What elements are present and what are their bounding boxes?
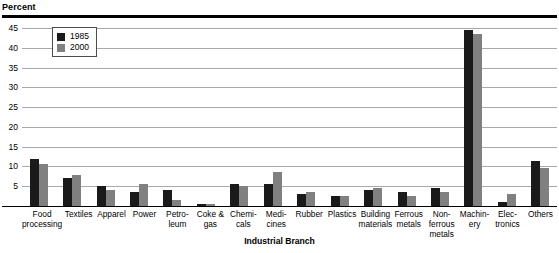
x-axis-tick-label: Petro-leum <box>161 209 194 239</box>
top-rule <box>2 15 557 18</box>
bar <box>264 184 273 206</box>
x-axis-tick-label: Coke &gas <box>194 209 227 239</box>
bar <box>230 184 239 206</box>
bar-chart: Percent 45403530252015105 Foodprocessing… <box>0 0 559 253</box>
x-axis-tick-label: Chemi-cals <box>227 209 260 239</box>
bar-groups <box>22 24 557 206</box>
bar <box>63 178 72 206</box>
legend-item-label: 2000 <box>70 43 89 52</box>
bar-group <box>457 24 490 206</box>
x-axis-tick-label: Ferrousmetals <box>392 209 425 239</box>
x-axis-tick-label: Machin-ery <box>458 209 491 239</box>
y-axis-tick-label: 15 <box>0 142 18 152</box>
bar <box>440 192 449 206</box>
bar <box>30 159 39 206</box>
legend: 1985 2000 <box>52 27 97 57</box>
y-axis-tick-label: 20 <box>0 122 18 132</box>
bar <box>464 30 473 206</box>
x-axis-tick-label: Textiles <box>62 209 95 239</box>
bar <box>306 192 315 206</box>
plot-area: 45403530252015105 <box>22 24 557 206</box>
bar <box>106 190 115 206</box>
bar <box>340 196 349 206</box>
bar <box>331 196 340 206</box>
x-axis-tick-label: Foodprocessing <box>22 209 62 239</box>
x-axis-tick-label: Non-ferrousmetals <box>425 209 458 239</box>
y-axis-tick-label: 35 <box>0 63 18 73</box>
x-axis-tick-label: Medi-cines <box>260 209 293 239</box>
y-axis-tick-label: 10 <box>0 161 18 171</box>
x-axis-tick-label: Plastics <box>326 209 359 239</box>
bar <box>239 186 248 206</box>
bar <box>72 175 81 206</box>
bar <box>431 188 440 206</box>
bar <box>507 194 516 206</box>
x-axis-tick-label: Elec-tronics <box>491 209 524 239</box>
bar <box>398 192 407 206</box>
bar <box>540 168 549 206</box>
bar-group <box>290 24 323 206</box>
bar <box>473 34 482 206</box>
legend-swatch-icon <box>57 44 65 52</box>
bar <box>139 184 148 206</box>
legend-item: 1985 <box>57 31 89 42</box>
y-axis-tick-label: 5 <box>0 181 18 191</box>
bar <box>273 172 282 206</box>
legend-item-label: 1985 <box>70 32 89 41</box>
y-axis-tick-label: 30 <box>0 82 18 92</box>
legend-item: 2000 <box>57 42 89 53</box>
x-axis-tick-label: Apparel <box>95 209 128 239</box>
bar-group <box>490 24 523 206</box>
bar <box>407 196 416 206</box>
bar-group <box>390 24 423 206</box>
bar <box>130 192 139 206</box>
x-axis-tick-label: Power <box>128 209 161 239</box>
x-axis-title: Industrial Branch <box>0 236 559 246</box>
bar-group <box>323 24 356 206</box>
bar-group <box>423 24 456 206</box>
bar <box>163 190 172 206</box>
y-axis-tick-label: 45 <box>0 23 18 33</box>
bar <box>297 194 306 206</box>
y-axis-tick-label: 40 <box>0 43 18 53</box>
legend-swatch-icon <box>57 33 65 41</box>
x-axis-line <box>2 206 557 207</box>
bar <box>531 161 540 207</box>
y-axis-title: Percent <box>2 2 36 13</box>
bar-group <box>156 24 189 206</box>
x-axis-tick-label: Others <box>524 209 557 239</box>
bar <box>364 190 373 206</box>
bar <box>39 164 48 206</box>
bar-group <box>524 24 557 206</box>
x-axis-tick-label: Rubber <box>293 209 326 239</box>
bar-group <box>189 24 222 206</box>
bar-group <box>223 24 256 206</box>
bar <box>373 188 382 206</box>
bar-group <box>356 24 389 206</box>
bar <box>97 186 106 206</box>
bar-group <box>22 24 55 206</box>
x-axis-labels: FoodprocessingTextilesApparelPowerPetro-… <box>22 209 557 239</box>
bar-group <box>256 24 289 206</box>
x-axis-tick-label: Buildingmaterials <box>359 209 393 239</box>
y-axis-tick-label: 25 <box>0 102 18 112</box>
bar-group <box>122 24 155 206</box>
